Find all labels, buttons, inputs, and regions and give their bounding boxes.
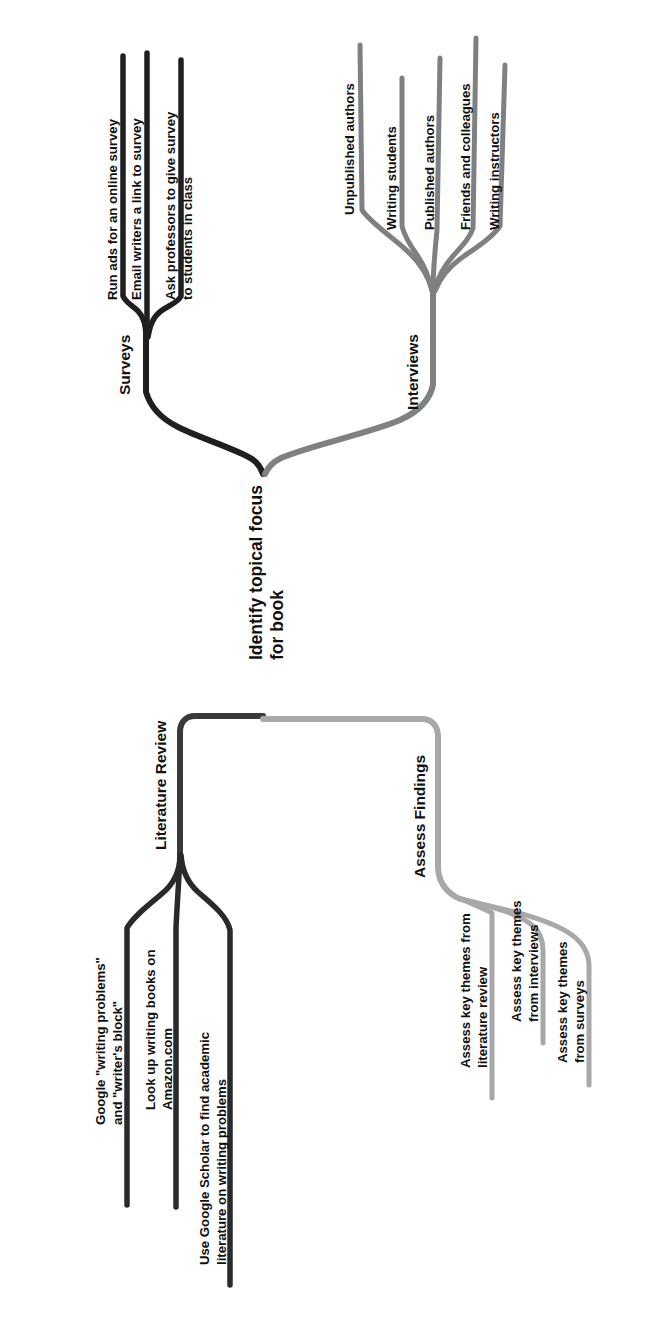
branch-label-assess-findings: Assess Findings [411, 755, 428, 878]
branch-literature-leaf-1 [176, 856, 180, 1207]
leaf-text: Assess key themes from [458, 913, 473, 1068]
leaf-text: Assess key themes [509, 900, 524, 1022]
leaf-text: Google "writing problems" [93, 957, 108, 1125]
leaf-text: Friends and colleagues [458, 83, 473, 230]
leaf-label-literature-2: Use Google Scholar to find academic lite… [197, 1032, 229, 1265]
leaf-label-surveys-0: Run ads for an online survey [105, 118, 120, 300]
assess-findings-label: Assess Findings [411, 755, 428, 878]
trunk-literature-review [180, 716, 263, 855]
leaf-text-line2: to students in class [180, 177, 195, 300]
leaf-text: Use Google Scholar to find academic [197, 1032, 212, 1265]
mindmap-svg: Identify topical focus for book Surveys … [0, 0, 660, 1319]
leaf-label-assess-2: Assess key themes from surveys [555, 941, 587, 1063]
leaf-label-interviews-1: Writing students [384, 126, 399, 230]
leaf-label-surveys-1: Email writers a link to survey [129, 118, 144, 300]
leaf-label-interviews-2: Published authors [422, 115, 437, 230]
leaf-label-interviews-4: Writing instructors [487, 112, 502, 230]
leaf-text-line2: from surveys [572, 980, 587, 1063]
leaf-text: Published authors [422, 115, 437, 230]
leaf-label-assess-0: Assess key themes from literature review [458, 913, 490, 1068]
mindmap-canvas: Identify topical focus for book Surveys … [0, 0, 660, 1319]
leaf-text-line2: and "writer's block" [110, 1001, 125, 1125]
literature-review-label: Literature Review [152, 720, 169, 850]
leaf-text: Unpublished authors [342, 83, 357, 215]
leaf-text-line2: Amazon.com [160, 1028, 175, 1110]
leaf-text-line2: from interviews [526, 925, 541, 1022]
root-label-group: Identify topical focus for book [246, 485, 287, 660]
leaf-text-line2: literature review [475, 966, 490, 1068]
branch-label-interviews: Interviews [404, 334, 421, 410]
surveys-label: Surveys [116, 335, 133, 395]
leaf-text: Look up writing books on [143, 950, 158, 1110]
leaf-text: Run ads for an online survey [105, 118, 120, 300]
branch-label-literature-review: Literature Review [152, 720, 169, 850]
leaf-text: Writing students [384, 126, 399, 230]
trunk-surveys [146, 337, 263, 474]
root-label-line2: for book [267, 590, 287, 660]
leaf-label-literature-0: Google "writing problems" and "writer's … [93, 957, 125, 1125]
leaf-text: Email writers a link to survey [129, 118, 144, 300]
leaf-text: Ask professors to give survey [163, 111, 178, 300]
leaf-label-interviews-3: Friends and colleagues [458, 83, 473, 230]
leaf-label-interviews-0: Unpublished authors [342, 83, 357, 215]
leaf-text-line2: literature on writing problems [214, 1079, 229, 1265]
interviews-label: Interviews [404, 334, 421, 410]
branch-label-surveys: Surveys [116, 335, 133, 395]
leaf-text: Assess key themes [555, 941, 570, 1063]
root-label-line1: Identify topical focus [246, 485, 266, 660]
leaf-label-literature-1: Look up writing books on Amazon.com [143, 950, 175, 1110]
leaf-text: Writing instructors [487, 112, 502, 230]
